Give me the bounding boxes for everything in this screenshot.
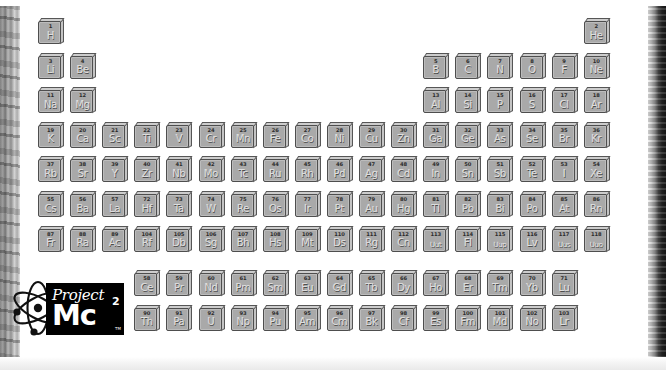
element-tile[interactable]: 93Np: [231, 305, 257, 332]
element-tile[interactable]: 25Mn: [231, 122, 257, 149]
element-tile[interactable]: 68Er: [455, 270, 481, 297]
element-tile[interactable]: 49In: [423, 156, 449, 183]
element-tile[interactable]: 63Eu: [295, 270, 321, 297]
element-tile[interactable]: 55Cs: [38, 191, 64, 218]
element-tile[interactable]: 86Rn: [584, 191, 610, 218]
element-tile[interactable]: 113Uut: [423, 226, 449, 253]
element-tile[interactable]: 48Cd: [391, 156, 417, 183]
element-tile[interactable]: 78Pt: [327, 191, 353, 218]
element-tile[interactable]: 58Ce: [134, 270, 160, 297]
element-tile[interactable]: 79Au: [359, 191, 385, 218]
element-tile[interactable]: 76Os: [263, 191, 289, 218]
element-tile[interactable]: 118Uuo: [584, 226, 610, 253]
element-tile[interactable]: 94Pu: [263, 305, 289, 332]
element-tile[interactable]: 10Ne: [584, 53, 610, 80]
element-tile[interactable]: 95Am: [295, 305, 321, 332]
element-tile[interactable]: 106Sg: [199, 226, 225, 253]
element-tile[interactable]: 27Co: [295, 122, 321, 149]
element-tile[interactable]: 36Kr: [584, 122, 610, 149]
element-tile[interactable]: 19K: [38, 122, 64, 149]
element-tile[interactable]: 92U: [199, 305, 225, 332]
element-tile[interactable]: 13Al: [423, 87, 449, 114]
element-tile[interactable]: 40Zr: [134, 156, 160, 183]
element-tile[interactable]: 42Mo: [199, 156, 225, 183]
element-tile[interactable]: 47Ag: [359, 156, 385, 183]
element-tile[interactable]: 70Yb: [520, 270, 546, 297]
element-tile[interactable]: 50Sn: [455, 156, 481, 183]
element-tile[interactable]: 35Br: [552, 122, 578, 149]
element-tile[interactable]: 30Zn: [391, 122, 417, 149]
element-tile[interactable]: 114Fl: [455, 226, 481, 253]
element-tile[interactable]: 83Bi: [487, 191, 513, 218]
element-tile[interactable]: 66Dy: [391, 270, 417, 297]
element-tile[interactable]: 101Md: [487, 305, 513, 332]
element-tile[interactable]: 53I: [552, 156, 578, 183]
element-tile[interactable]: 117Uus: [552, 226, 578, 253]
element-tile[interactable]: 102No: [520, 305, 546, 332]
element-tile[interactable]: 17Cl: [552, 87, 578, 114]
element-tile[interactable]: 61Pm: [231, 270, 257, 297]
element-tile[interactable]: 80Hg: [391, 191, 417, 218]
element-tile[interactable]: 85At: [552, 191, 578, 218]
element-tile[interactable]: 116Lv: [520, 226, 546, 253]
element-tile[interactable]: 14Si: [455, 87, 481, 114]
element-tile[interactable]: 5B: [423, 53, 449, 80]
element-tile[interactable]: 28Ni: [327, 122, 353, 149]
element-tile[interactable]: 7N: [487, 53, 513, 80]
element-tile[interactable]: 108Hs: [263, 226, 289, 253]
element-tile[interactable]: 51Sb: [487, 156, 513, 183]
element-tile[interactable]: 2He: [584, 18, 610, 45]
element-tile[interactable]: 96Cm: [327, 305, 353, 332]
element-tile[interactable]: 88Ra: [70, 226, 96, 253]
element-tile[interactable]: 89Ac: [102, 226, 128, 253]
element-tile[interactable]: 104Rf: [134, 226, 160, 253]
element-tile[interactable]: 99Es: [423, 305, 449, 332]
element-tile[interactable]: 84Po: [520, 191, 546, 218]
element-tile[interactable]: 90Th: [134, 305, 160, 332]
element-tile[interactable]: 20Ca: [70, 122, 96, 149]
element-tile[interactable]: 37Rb: [38, 156, 64, 183]
element-tile[interactable]: 23V: [166, 122, 192, 149]
element-tile[interactable]: 44Ru: [263, 156, 289, 183]
element-tile[interactable]: 82Pb: [455, 191, 481, 218]
element-tile[interactable]: 59Pr: [166, 270, 192, 297]
element-tile[interactable]: 57La: [102, 191, 128, 218]
element-tile[interactable]: 98Cf: [391, 305, 417, 332]
element-tile[interactable]: 11Na: [38, 87, 64, 114]
element-tile[interactable]: 112Cn: [391, 226, 417, 253]
element-tile[interactable]: 87Fr: [38, 226, 64, 253]
element-tile[interactable]: 15P: [487, 87, 513, 114]
element-tile[interactable]: 115Uup: [487, 226, 513, 253]
element-tile[interactable]: 69Tm: [487, 270, 513, 297]
element-tile[interactable]: 73Ta: [166, 191, 192, 218]
element-tile[interactable]: 77Ir: [295, 191, 321, 218]
element-tile[interactable]: 16S: [520, 87, 546, 114]
element-tile[interactable]: 8O: [520, 53, 546, 80]
element-tile[interactable]: 26Fe: [263, 122, 289, 149]
element-tile[interactable]: 22Ti: [134, 122, 160, 149]
element-tile[interactable]: 18Ar: [584, 87, 610, 114]
element-tile[interactable]: 111Rg: [359, 226, 385, 253]
element-tile[interactable]: 43Tc: [231, 156, 257, 183]
element-tile[interactable]: 64Gd: [327, 270, 353, 297]
element-tile[interactable]: 6C: [455, 53, 481, 80]
element-tile[interactable]: 81Tl: [423, 191, 449, 218]
element-tile[interactable]: 33As: [487, 122, 513, 149]
element-tile[interactable]: 9F: [552, 53, 578, 80]
element-tile[interactable]: 24Cr: [199, 122, 225, 149]
element-tile[interactable]: 31Ga: [423, 122, 449, 149]
element-tile[interactable]: 100Fm: [455, 305, 481, 332]
element-tile[interactable]: 41Nb: [166, 156, 192, 183]
element-tile[interactable]: 39Y: [102, 156, 128, 183]
element-tile[interactable]: 29Cu: [359, 122, 385, 149]
element-tile[interactable]: 74W: [199, 191, 225, 218]
element-tile[interactable]: 105Db: [166, 226, 192, 253]
element-tile[interactable]: 110Ds: [327, 226, 353, 253]
element-tile[interactable]: 62Sm: [263, 270, 289, 297]
element-tile[interactable]: 67Ho: [423, 270, 449, 297]
element-tile[interactable]: 12Mg: [70, 87, 96, 114]
element-tile[interactable]: 71Lu: [552, 270, 578, 297]
element-tile[interactable]: 46Pd: [327, 156, 353, 183]
element-tile[interactable]: 103Lr: [552, 305, 578, 332]
element-tile[interactable]: 52Te: [520, 156, 546, 183]
